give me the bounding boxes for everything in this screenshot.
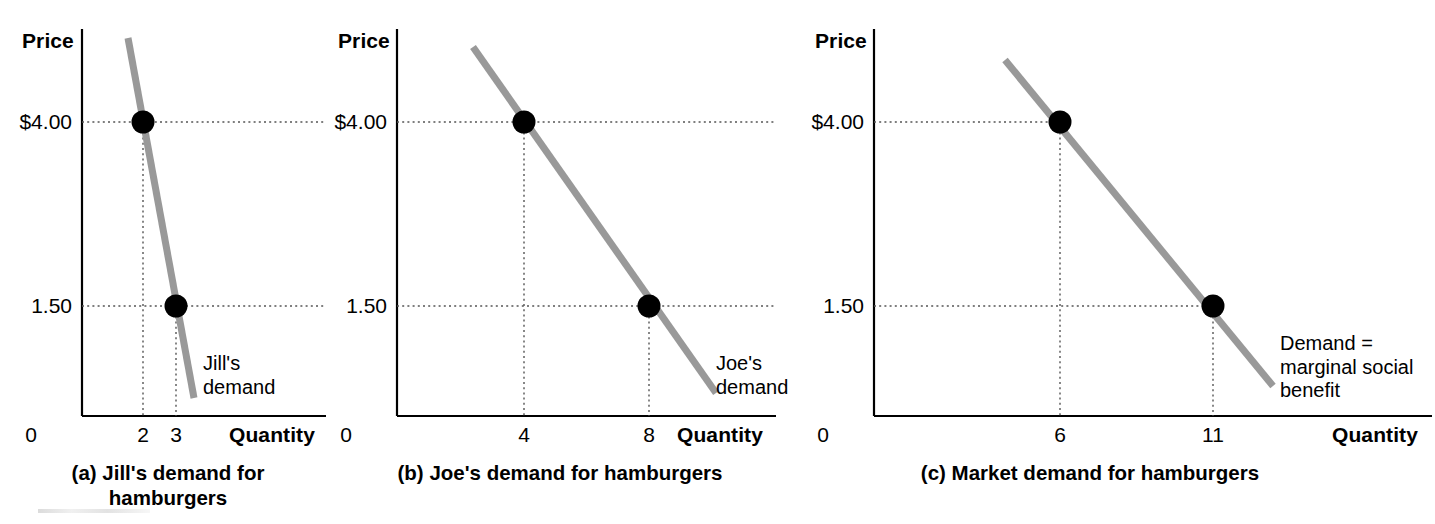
x-tick-4: 4 xyxy=(511,424,537,445)
y-axis-title: Price xyxy=(815,30,867,51)
panel-c-caption: (c) Market demand for hamburgers xyxy=(810,461,1370,486)
scan-artifact xyxy=(38,509,150,513)
y-axis-title: Price xyxy=(338,30,390,51)
panel-a: Price Quantity $4.00 1.50 0 2 3 Jill's d… xyxy=(0,0,340,524)
x-origin-label: 0 xyxy=(810,424,836,445)
y-tick-4-00: $4.00 xyxy=(792,111,864,132)
x-origin-label: 0 xyxy=(333,424,359,445)
x-tick-2: 2 xyxy=(130,424,156,445)
x-axis-title: Quantity xyxy=(229,424,315,445)
demand-curve-joe xyxy=(473,47,716,393)
y-axis-title: Price xyxy=(22,30,74,51)
demand-curve-market xyxy=(1005,60,1273,386)
y-tick-4-00: $4.00 xyxy=(0,111,72,132)
figure-demand-panels: Price Quantity $4.00 1.50 0 2 3 Jill's d… xyxy=(0,0,1435,524)
curve-label-market-demand: Demand = marginal social benefit xyxy=(1280,332,1413,403)
x-tick-11: 11 xyxy=(1200,424,1226,445)
demand-curve-jill xyxy=(128,38,194,398)
data-point-1-50 xyxy=(638,295,661,318)
data-point-1-50 xyxy=(1202,295,1225,318)
data-point-4-00 xyxy=(513,111,536,134)
x-tick-8: 8 xyxy=(636,424,662,445)
x-axis-title: Quantity xyxy=(677,424,763,445)
panel-b: Price Quantity $4.00 1.50 0 4 8 Joe's de… xyxy=(340,0,780,524)
panel-c: Price Quantity $4.00 1.50 0 6 11 Demand … xyxy=(780,0,1435,524)
y-tick-4-00: $4.00 xyxy=(315,111,387,132)
panel-a-caption: (a) Jill's demand for hamburgers xyxy=(18,461,318,510)
y-tick-1-50: 1.50 xyxy=(0,295,72,316)
x-origin-label: 0 xyxy=(18,424,44,445)
curve-label-joe-demand: Joe's demand xyxy=(716,352,788,399)
y-tick-1-50: 1.50 xyxy=(792,295,864,316)
data-point-4-00 xyxy=(132,111,155,134)
x-tick-3: 3 xyxy=(163,424,189,445)
panel-b-caption: (b) Joe's demand for hamburgers xyxy=(350,461,770,486)
y-tick-1-50: 1.50 xyxy=(315,295,387,316)
data-point-1-50 xyxy=(165,295,188,318)
curve-label-jill-demand: Jill's demand xyxy=(203,352,275,399)
x-axis-title: Quantity xyxy=(1332,424,1418,445)
data-point-4-00 xyxy=(1049,111,1072,134)
x-tick-6: 6 xyxy=(1047,424,1073,445)
